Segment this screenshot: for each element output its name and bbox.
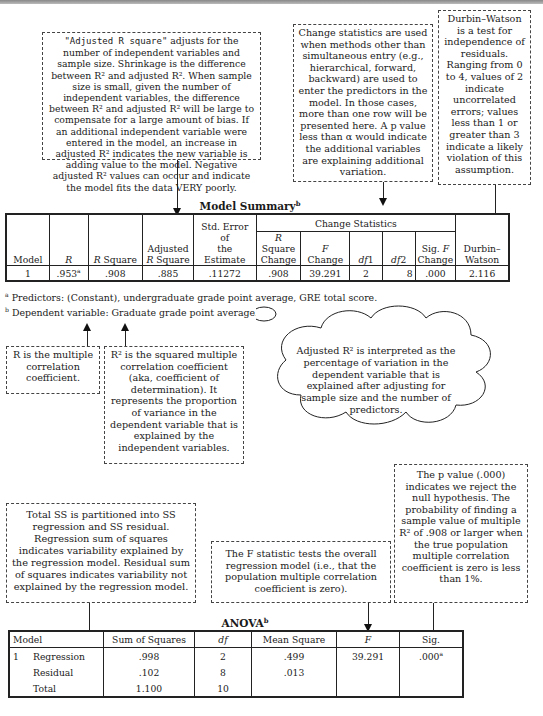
annotation-r-squared: R² is the squared multiple correlation c… [104, 346, 244, 464]
col-sig-f-change: Sig. FChange [415, 232, 456, 266]
arrow-up-icon [121, 323, 129, 331]
col-mean-square: Mean Square [252, 631, 337, 648]
footnote-b: b Dependent variable: Graduate grade poi… [5, 307, 258, 318]
col-r: R [49, 214, 88, 266]
arrow-down-icon [379, 198, 387, 206]
f-statistic-text: The F statistic tests the overall regres… [225, 548, 377, 594]
col-df: df [195, 631, 252, 648]
anova-table: Model Sum of Squares df Mean Square F Si… [8, 630, 464, 698]
cell-sig-f-change: .000 [415, 266, 456, 282]
annotation-f-statistic: The F statistic tests the overall regres… [211, 541, 391, 603]
change-statistics-text: Change statistics are used when methods … [299, 27, 428, 177]
adjusted-r-square-text: adjusts for the number of independent va… [49, 35, 254, 193]
annotation-r-multiple: R is the multiple correlation coefficien… [6, 346, 100, 394]
cell-adj-r-square: .885 [143, 266, 194, 282]
adjusted-r-square-lead: "Adjusted R square" [64, 36, 167, 46]
connector-line [433, 603, 434, 633]
cell-df1: 2 [350, 266, 383, 282]
table-row: 1 .953a .908 .885 .11272 .908 39.291 2 8… [6, 266, 509, 282]
annotation-p-value: The p value (.000) indicates we reject t… [394, 464, 528, 603]
cell-r: .953a [49, 266, 88, 282]
col-df1: df1 [350, 232, 383, 266]
cell-r-square-change: .908 [256, 266, 301, 282]
annotation-total-ss: Total SS is partitioned into SS regressi… [6, 503, 196, 603]
col-r-square: R Square [88, 214, 143, 266]
annotation-adjusted-r-square: "Adjusted R square" adjusts for the numb… [42, 32, 261, 160]
model-summary-title: Model Summaryb [180, 200, 320, 212]
col-model: Model [9, 631, 104, 648]
connector-line [368, 603, 369, 625]
p-value-text: The p value (.000) indicates we reject t… [399, 469, 522, 584]
col-sum-of-squares: Sum of Squares [104, 631, 195, 648]
anova-title: ANOVAb [205, 617, 285, 629]
connector-line [177, 160, 178, 212]
connector-line [89, 603, 90, 633]
col-f: F [337, 631, 400, 648]
arrow-up-icon [83, 323, 91, 331]
col-r-square-change: R SquareChange [256, 232, 301, 266]
cell-durbin-watson: 2.116 [456, 266, 509, 282]
table-row: 1 Regression .998 2 .499 39.291 .000a [9, 648, 463, 665]
annotation-change-statistics: Change statistics are used when methods … [293, 24, 433, 182]
cell-model: 1 [6, 266, 49, 282]
col-durbin-watson: Durbin–Watson [456, 214, 509, 266]
col-sig: Sig. [400, 631, 464, 648]
group-change-statistics: Change Statistics [256, 214, 456, 232]
durbin-watson-text: Durbin–Watson is a test for independence… [444, 13, 525, 175]
total-ss-text: Total SS is partitioned into SS regressi… [12, 509, 190, 592]
col-std-error: Std. Error ofthe Estimate [193, 214, 256, 266]
annotation-durbin-watson: Durbin–Watson is a test for independence… [438, 10, 531, 185]
col-f-change: F Change [301, 232, 350, 266]
col-model: Model [6, 214, 49, 266]
cell-f-change: 39.291 [301, 266, 350, 282]
col-df2: df2 [382, 232, 415, 266]
cell-r-square: .908 [88, 266, 143, 282]
table-row: Residual .102 8 .013 [9, 664, 463, 680]
table-row: Total 1.100 10 [9, 680, 463, 697]
r-multiple-text: R is the multiple correlation coefficien… [13, 349, 93, 383]
adjusted-r-square-cloud-text: Adjusted R² is interpreted as the percen… [296, 345, 456, 416]
cell-std-error: .11272 [193, 266, 256, 282]
page-top-rule [0, 0, 543, 4]
r-squared-text: R² is the squared multiple correlation c… [110, 349, 238, 453]
cell-df2: 8 [382, 266, 415, 282]
col-adjusted-r-square: AdjustedR Square [143, 214, 194, 266]
model-summary-table: Model R R Square AdjustedR Square Std. E… [5, 213, 510, 282]
